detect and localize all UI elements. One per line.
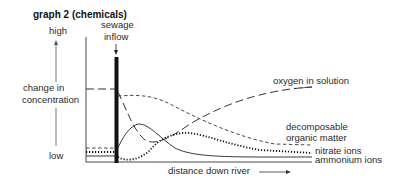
chart-plot (0, 0, 406, 186)
leader-oxygen (300, 87, 312, 88)
series-oxygen (86, 87, 312, 142)
y-axis-up-arrow-icon (54, 40, 58, 82)
series-nitrate (86, 133, 312, 160)
series-organic-matter (86, 95, 312, 148)
sewage-arrow-icon (114, 44, 118, 55)
series-ammonium (86, 124, 312, 157)
x-axis-right-arrow-icon (259, 170, 291, 174)
